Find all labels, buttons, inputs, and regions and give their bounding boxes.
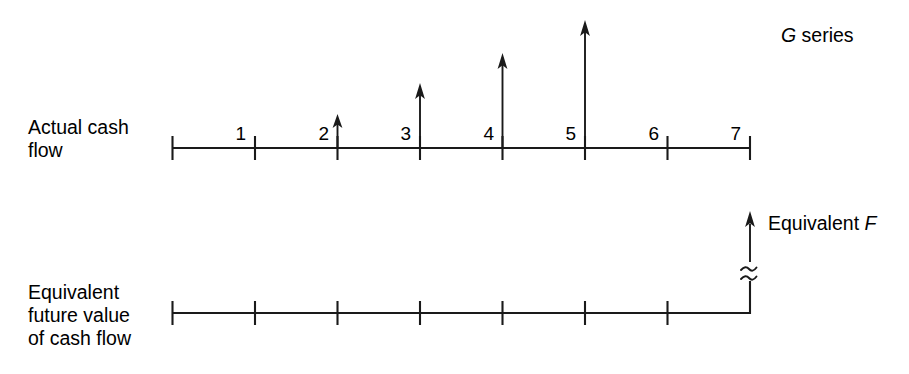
break-symbol-icon [741, 267, 757, 279]
top-period-label-3: 3 [400, 123, 411, 144]
top-period-label-1: 1 [235, 123, 246, 144]
cash-flow-arrow-period-4 [498, 53, 508, 148]
panel-actual-cash-flow: 1 2 3 4 5 6 7 [172, 20, 750, 160]
panel-equivalent-future-value [172, 211, 757, 325]
label-equivalent-future-value: Equivalent future value of cash flow [28, 281, 131, 350]
equivalent-f-arrow [745, 211, 755, 314]
top-period-label-5: 5 [565, 123, 576, 144]
label-g-series: G series [781, 24, 854, 47]
label-actual-cash-flow: Actual cash flow [28, 116, 129, 162]
cash-flow-arrow-period-2 [333, 114, 343, 148]
top-period-label-2: 2 [318, 123, 329, 144]
equivalent-f-symbol: F [864, 212, 876, 234]
top-period-label-6: 6 [648, 123, 659, 144]
top-period-label-7: 7 [730, 123, 741, 144]
top-period-label-4: 4 [483, 123, 494, 144]
cash-flow-arrow-period-3 [415, 83, 425, 148]
diagram-canvas: 1 2 3 4 5 6 7 [0, 0, 909, 374]
g-series-symbol: G [781, 24, 796, 46]
cash-flow-arrow-period-5 [580, 20, 590, 148]
equivalent-f-word: Equivalent [768, 212, 864, 234]
cash-flow-diagram: 1 2 3 4 5 6 7 [0, 0, 909, 374]
label-equivalent-f: Equivalent F [768, 212, 876, 235]
g-series-word: series [796, 24, 853, 46]
